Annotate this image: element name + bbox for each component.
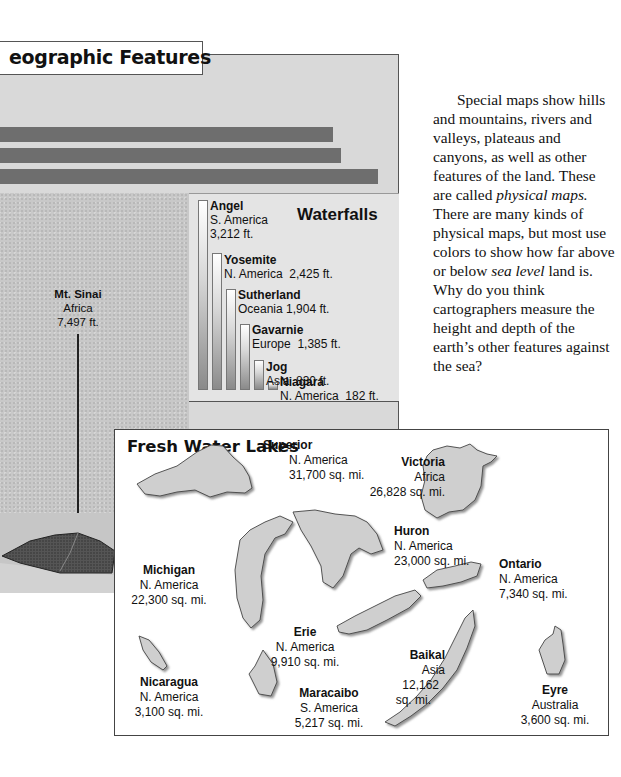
waterfall-label-niagara: Niagara N. America 182 ft. (280, 375, 379, 403)
lake-label-michigan: Michigan N. America 22,300 sq. mi. (129, 563, 209, 608)
lake-label-erie: Erie N. America 9,910 sq. mi. (265, 625, 345, 670)
geographic-features-title: eographic Features (9, 46, 211, 68)
feature-bar-1 (0, 127, 333, 142)
waterfalls-title: Waterfalls (297, 205, 378, 225)
waterfall-bar-gavarnie (240, 324, 250, 390)
waterfall-label-yosemite: Yosemite N. America 2,425 ft. (224, 253, 333, 281)
lake-eyre-shape (539, 626, 565, 674)
mountain-height: 7,497 ft. (28, 315, 128, 329)
lake-michigan-shape (235, 516, 293, 628)
waterfalls-panel: Waterfalls Angel S. America 3,212 ft. Yo… (189, 193, 399, 402)
lake-label-ontario: Ontario N. America 7,340 sq. mi. (499, 557, 568, 602)
waterfall-label-angel: Angel S. America 3,212 ft. (210, 199, 268, 241)
feature-bar-3 (0, 169, 378, 184)
lake-nicaragua-shape (139, 636, 167, 670)
waterfall-label-gavarnie: Gavarnie Europe 1,385 ft. (252, 323, 341, 351)
lake-label-nicaragua: Nicaragua N. America 3,100 sq. mi. (129, 675, 209, 720)
waterfall-bar-jog (254, 360, 264, 390)
lake-label-baikal: Baikal Asia 12,162 sq. mi. (387, 648, 445, 708)
lake-label-huron: Huron N. America 23,000 sq. mi. (394, 524, 469, 569)
waterfall-bar-yosemite (212, 253, 222, 390)
lake-huron-shape (293, 510, 383, 588)
fresh-water-lakes-panel: Fresh Water Lakes (114, 429, 609, 736)
waterfall-label-sutherland: Sutherland Oceania 1,904 ft. (238, 288, 329, 316)
lake-erie-shape (337, 590, 421, 634)
mountain-height-line (77, 334, 79, 534)
lake-label-superior: Superior N. America 31,700 sq. mi. (263, 438, 364, 483)
mountain-name: Mt. Sinai (28, 287, 128, 301)
feature-bar-2 (0, 148, 341, 163)
waterfall-bar-sutherland (226, 289, 236, 390)
geographic-features-title-box: eographic Features (0, 41, 203, 75)
lake-label-maracaibo: Maracaibo S. America 5,217 sq. mi. (289, 686, 369, 731)
lake-label-victoria: Victoria Africa 26,828 sq. mi. (385, 455, 445, 500)
body-paragraph: Special maps show hills and mountains, r… (433, 90, 618, 375)
mt-sinai-label: Mt. Sinai Africa 7,497 ft. (28, 287, 128, 329)
lake-label-eyre: Eyre Australia 3,600 sq. mi. (515, 683, 595, 728)
mountain-continent: Africa (28, 301, 128, 315)
lake-superior-shape (137, 445, 252, 497)
waterfall-bar-angel (198, 200, 208, 390)
